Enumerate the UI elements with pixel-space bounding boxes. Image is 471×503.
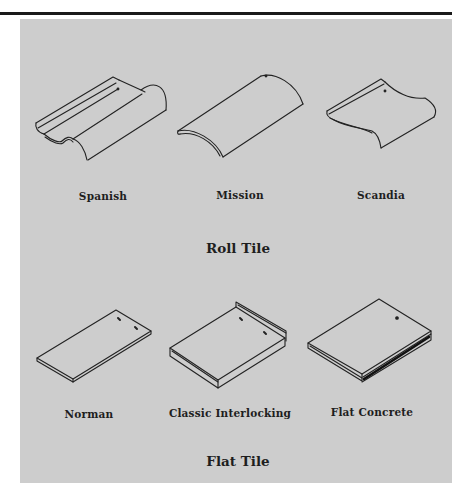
tile-label-spanish: Spanish bbox=[79, 190, 127, 202]
tile-label-norman: Norman bbox=[65, 408, 114, 420]
tile-label-classic-interlocking: Classic Interlocking bbox=[169, 407, 291, 419]
tile-label-scandia: Scandia bbox=[357, 189, 405, 201]
group-title-roll-tile: Roll Tile bbox=[206, 240, 270, 256]
flat-concrete-tile-illustration bbox=[308, 299, 431, 382]
group-title-flat-tile: Flat Tile bbox=[206, 453, 269, 469]
top-rule bbox=[0, 12, 452, 15]
mission-tile-illustration bbox=[178, 75, 303, 157]
tile-label-flat-concrete: Flat Concrete bbox=[331, 406, 413, 418]
figure-panel: Spanish Mission Scandia Roll Tile Norman… bbox=[20, 19, 452, 483]
norman-tile-illustration bbox=[37, 310, 151, 382]
scandia-tile-illustration bbox=[327, 79, 436, 148]
classic-interlocking-tile-illustration bbox=[170, 302, 286, 388]
spanish-tile-illustration bbox=[36, 77, 166, 160]
tile-label-mission: Mission bbox=[216, 189, 263, 201]
